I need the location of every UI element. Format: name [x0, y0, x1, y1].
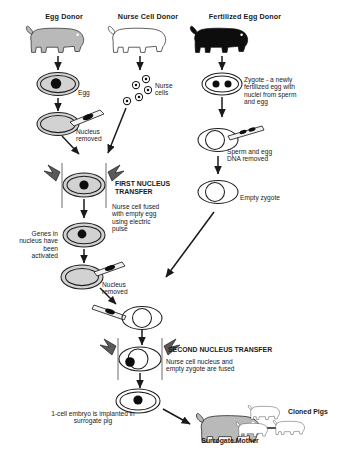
- label-nurse-cells: Nurse cells: [155, 82, 173, 97]
- arrow-nursecell-to-fusion: [108, 108, 126, 153]
- label-egg: Egg: [78, 89, 90, 96]
- label-nucleus-removed-2: Nucleus removed: [102, 281, 128, 296]
- pipette-nucleus-removal-2: [94, 262, 125, 276]
- cloning-diagram: Egg Donor Nurse Cell Donor Fertilized Eg…: [0, 0, 338, 456]
- label-implanted-in-surrogate: 1-cell embryo is implanted in surrogate …: [38, 410, 148, 425]
- label-first-nucleus-transfer-body: Nurse cell fused with empty egg using el…: [112, 203, 204, 233]
- pig-egg-donor: [26, 26, 83, 52]
- pig-fertilized-egg-donor: [190, 26, 247, 52]
- pipette-injection: [92, 305, 126, 320]
- label-genes-activated: Genes in nucleus have been activated: [2, 230, 58, 260]
- label-zygote: Zygote - a newly fertilized egg with nuc…: [244, 76, 338, 106]
- cloned-pig-1: [248, 405, 279, 419]
- label-second-nucleus-transfer-title: SECOND NUCLEUS TRANSFER: [168, 346, 318, 354]
- cloned-pig-3: [273, 420, 304, 434]
- label-cloned-pigs: Cloned Pigs: [288, 408, 328, 416]
- cell-genes-activated: [63, 223, 105, 247]
- cell-nucleus-removed-2: [61, 265, 103, 289]
- label-second-nucleus-transfer-body: Nurse cell nucleus and empty zygote are …: [166, 358, 290, 373]
- lightning-bolt-left-2: [100, 339, 116, 355]
- label-nucleus-removed-1: Nucleus removed: [76, 128, 102, 143]
- label-first-nucleus-transfer-title: FIRST NUCLEUS TRANSFER: [115, 180, 210, 195]
- label-sperm-egg-dna-removed: Sperm and egg DNA removed: [227, 148, 323, 163]
- injection-into-empty-zygote: [92, 305, 162, 330]
- cell-egg: [37, 73, 79, 96]
- arrow-embryo-to-surrogate: [163, 409, 190, 424]
- cell-zygote: [202, 73, 242, 95]
- label-surrogate-mother: Surrogate Mother: [178, 437, 282, 445]
- pig-nurse-cell-donor: [108, 26, 165, 52]
- nurse-cells-cluster: [123, 75, 151, 104]
- lightning-bolt-left: [44, 165, 60, 181]
- lightning-bolt-right: [108, 165, 124, 181]
- label-empty-zygote: Empty zygote: [240, 194, 280, 201]
